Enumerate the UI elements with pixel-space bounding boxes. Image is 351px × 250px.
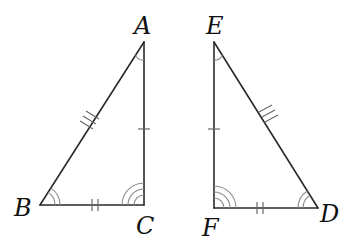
angle-f-triple-arc (214, 186, 236, 208)
angle-a-single-arc (135, 56, 144, 61)
vertex-label-e: E (206, 14, 224, 38)
congruent-triangles-figure (0, 0, 351, 250)
side-ab (40, 42, 144, 205)
angle-e-single-arc (214, 56, 223, 61)
angle-c-triple-arc (122, 183, 144, 205)
vertex-label-c: C (136, 214, 154, 238)
triangle-abc (40, 42, 150, 211)
side-ed (214, 42, 318, 208)
vertex-label-b: B (14, 196, 32, 220)
vertex-label-f: F (202, 216, 219, 240)
vertex-label-d: D (320, 202, 339, 226)
vertex-label-a: A (134, 14, 151, 38)
triangle-efd (208, 42, 318, 214)
side-ab-triple-tick-mark (80, 111, 99, 129)
